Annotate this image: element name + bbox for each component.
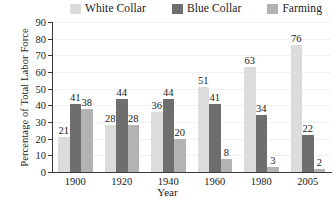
y-tick-mark — [48, 89, 52, 90]
y-tick-mark — [48, 39, 52, 40]
bar: 41 — [209, 104, 221, 172]
bar-group: 51418 — [198, 22, 233, 172]
bar: 8 — [221, 159, 233, 172]
bar-value-label: 28 — [105, 113, 116, 124]
y-tick-label: 50 — [36, 83, 47, 94]
bar-chart: White Collar Blue Collar Farming Percent… — [0, 0, 335, 209]
y-tick-label: 60 — [36, 67, 47, 78]
bar-value-label: 63 — [245, 55, 256, 66]
gridline — [52, 39, 331, 40]
y-tick-label: 70 — [36, 50, 47, 61]
bar: 34 — [256, 115, 268, 172]
y-tick-label: 20 — [36, 133, 47, 144]
gridline — [52, 55, 331, 56]
bar-group: 63343 — [244, 22, 279, 172]
legend-swatch-blue-collar — [172, 4, 183, 14]
bar: 20 — [174, 139, 186, 172]
bar-group: 214138 — [58, 22, 93, 172]
y-tick-label: 0 — [41, 167, 46, 178]
bar-value-label: 8 — [224, 147, 229, 158]
bar: 44 — [163, 99, 175, 172]
bar-value-label: 41 — [210, 92, 221, 103]
bar: 41 — [70, 104, 82, 172]
bar: 63 — [244, 67, 256, 172]
legend-label-blue-collar: Blue Collar — [187, 3, 241, 15]
bar: 28 — [105, 125, 117, 172]
legend-entry-farming: Farming — [267, 3, 322, 15]
chart-legend: White Collar Blue Collar Farming — [70, 1, 332, 16]
bar-value-label: 44 — [117, 87, 128, 98]
bar-value-label: 38 — [82, 97, 93, 108]
bar-value-label: 2 — [317, 157, 322, 168]
gridline — [52, 89, 331, 90]
plot-area: 0102030405060708090 21413828442836442051… — [52, 22, 331, 172]
bar-value-label: 22 — [303, 123, 314, 134]
x-axis-line — [52, 172, 332, 173]
legend-entry-blue-collar: Blue Collar — [172, 3, 241, 15]
y-tick-mark — [48, 139, 52, 140]
bar-group: 284428 — [105, 22, 140, 172]
bar: 28 — [128, 125, 140, 172]
gridline — [52, 105, 331, 106]
legend-swatch-white-collar — [70, 4, 81, 14]
bar: 76 — [291, 45, 303, 172]
x-axis-title: Year — [0, 186, 335, 198]
y-axis-title: Percentage of Total Labor Force — [19, 18, 30, 178]
y-tick-label: 40 — [36, 100, 47, 111]
gridline — [52, 22, 331, 23]
y-tick-mark — [48, 55, 52, 56]
bar: 22 — [302, 135, 314, 172]
legend-swatch-farming — [267, 4, 278, 14]
bar-value-label: 76 — [291, 33, 302, 44]
y-tick-label: 30 — [36, 117, 47, 128]
bar-value-label: 3 — [270, 155, 275, 166]
y-tick-mark — [48, 22, 52, 23]
bar-value-label: 20 — [175, 127, 186, 138]
bar: 21 — [58, 137, 70, 172]
bar-group: 364420 — [151, 22, 186, 172]
y-tick-mark — [48, 172, 52, 173]
y-tick-label: 90 — [36, 17, 47, 28]
bar: 3 — [267, 167, 279, 172]
gridline — [52, 155, 331, 156]
y-tick-mark — [48, 155, 52, 156]
gridline — [52, 139, 331, 140]
bar: 44 — [116, 99, 128, 172]
y-tick-label: 80 — [36, 33, 47, 44]
y-tick-mark — [48, 122, 52, 123]
bar: 2 — [314, 169, 326, 172]
gridline — [52, 72, 331, 73]
y-tick-label: 10 — [36, 150, 47, 161]
legend-label-farming: Farming — [282, 3, 322, 15]
bar-value-label: 28 — [128, 113, 139, 124]
bar-value-label: 21 — [59, 125, 70, 136]
y-tick-mark — [48, 105, 52, 106]
legend-entry-white-collar: White Collar — [70, 3, 146, 15]
bar: 38 — [81, 109, 93, 172]
bar-value-label: 51 — [198, 75, 209, 86]
y-tick-mark — [48, 72, 52, 73]
bar-value-label: 34 — [256, 103, 267, 114]
legend-label-white-collar: White Collar — [85, 3, 146, 15]
bar: 51 — [198, 87, 210, 172]
y-axis-line — [52, 22, 53, 173]
bar-value-label: 36 — [152, 100, 163, 111]
bar: 36 — [151, 112, 163, 172]
bar-value-label: 44 — [163, 87, 174, 98]
bar-group: 76222 — [291, 22, 326, 172]
gridline — [52, 122, 331, 123]
bar-value-label: 41 — [70, 92, 81, 103]
